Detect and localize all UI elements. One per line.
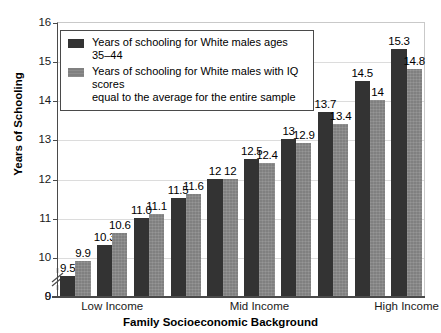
bar-value-label: 14.5 <box>351 67 373 79</box>
y-axis-tick-label: 12 <box>25 173 51 185</box>
legend-label-series-1: Years of schooling for White males ages … <box>92 36 306 62</box>
bar-light <box>296 143 311 296</box>
legend-item-series-2: Years of schooling for White males with … <box>68 65 306 104</box>
bar-value-label: 11.1 <box>146 200 167 212</box>
bar-group: 13.713.4 <box>318 22 348 296</box>
bar-value-label: 9.9 <box>75 247 90 259</box>
bar-dark <box>355 81 370 296</box>
bar-dark <box>281 139 296 296</box>
bar-dark <box>60 276 75 296</box>
bar-chart: Years of Schooling 0910111213141516 9.59… <box>0 0 441 333</box>
bar-dark <box>318 112 333 296</box>
bar-value-label: 9.5 <box>60 262 75 274</box>
bar-light <box>223 179 238 296</box>
x-axis-title: Family Socioeconomic Background <box>0 316 441 328</box>
y-axis-tick-label: 13 <box>25 133 51 145</box>
bar-dark <box>391 49 406 296</box>
legend-label-series-1-line1: Years of schooling for White males ages … <box>92 36 306 62</box>
legend-label-series-2-line2: equal to the average for the entire samp… <box>92 91 306 104</box>
bar-dark <box>97 245 112 296</box>
chart-legend: Years of schooling for White males ages … <box>60 30 314 111</box>
x-axis-tick-label: Mid Income <box>230 300 289 312</box>
bar-value-label: 14.8 <box>403 55 425 67</box>
bar-value-label: 11.6 <box>183 180 204 192</box>
bar-value-label: 12 <box>209 165 221 177</box>
bar-dark <box>207 179 222 296</box>
bar-light <box>75 261 90 296</box>
bar-group: 15.314.8 <box>391 22 421 296</box>
x-axis-line <box>57 296 425 298</box>
legend-swatch-light-icon <box>68 68 84 77</box>
bar-light <box>370 100 385 296</box>
bar-value-label: 10.6 <box>109 219 131 231</box>
y-axis-tick-zero <box>52 296 57 298</box>
x-axis-tick-label: High Income <box>374 300 439 312</box>
bar-value-label: 15.3 <box>388 35 410 47</box>
bar-value-label: 13.4 <box>330 110 352 122</box>
bar-value-label: 13.7 <box>315 98 337 110</box>
bar-value-label: 12 <box>224 165 236 177</box>
y-axis-tick-label: 11 <box>25 212 51 224</box>
y-axis-tick-label: 15 <box>25 55 51 67</box>
bar-value-label: 12.9 <box>293 129 315 141</box>
bar-light <box>333 124 348 296</box>
x-axis-tick-label: Low Income <box>81 300 143 312</box>
y-axis-tick-label: 9 <box>25 290 51 302</box>
bar-light <box>259 163 274 296</box>
bar-value-label: 12.4 <box>256 149 278 161</box>
bar-dark <box>171 198 186 296</box>
y-axis-tick-label: 14 <box>25 94 51 106</box>
bar-dark <box>244 159 259 296</box>
bar-light <box>186 194 201 296</box>
legend-label-series-2-line1: Years of schooling for White males with … <box>92 65 306 91</box>
legend-label-series-2: Years of schooling for White males with … <box>92 65 306 104</box>
y-axis-tick-label: 16 <box>25 16 51 28</box>
bar-light <box>407 69 422 296</box>
bar-value-label: 14 <box>371 86 383 98</box>
bar-light <box>112 233 127 296</box>
y-axis-tick-labels: 0910111213141516 <box>22 0 51 333</box>
bar-dark <box>134 218 149 296</box>
legend-item-series-1: Years of schooling for White males ages … <box>68 36 306 62</box>
y-axis-tick-label: 10 <box>25 251 51 263</box>
bar-group: 14.514 <box>355 22 385 296</box>
bar-light <box>149 214 164 296</box>
legend-swatch-dark-icon <box>68 39 84 48</box>
